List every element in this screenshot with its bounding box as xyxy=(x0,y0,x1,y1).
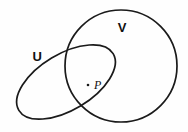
set-u-label: U xyxy=(32,49,41,64)
point-p-dot xyxy=(87,84,90,87)
set-u-ellipse xyxy=(4,30,127,132)
set-v-label: V xyxy=(118,20,127,35)
venn-diagram-canvas: U V P xyxy=(0,0,188,132)
venn-diagram-figure: U V P xyxy=(0,0,188,132)
point-p-label: P xyxy=(93,78,102,92)
